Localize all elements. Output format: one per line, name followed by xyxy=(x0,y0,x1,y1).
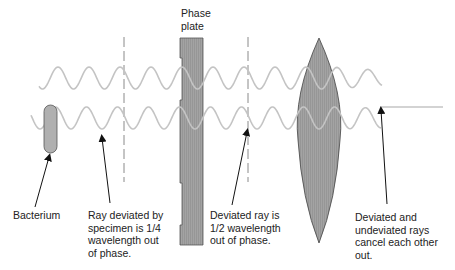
arrow-bacterium xyxy=(35,157,49,207)
cancel-label: Deviated and undeviated rays cancel each… xyxy=(355,211,438,261)
bacterium-shape xyxy=(44,105,57,153)
quarter-wave-label: Ray deviated by specimen is 1/4 waveleng… xyxy=(88,209,163,259)
arrow-half-wave xyxy=(232,132,247,205)
bacterium-label: Bacterium xyxy=(13,209,60,222)
arrow-cancel xyxy=(381,110,387,204)
phase-plate-label: Phase plate xyxy=(181,7,211,32)
half-wave-label: Deviated ray is 1/2 wavelength out of ph… xyxy=(210,209,281,247)
phase-plate xyxy=(180,38,203,245)
arrow-quarter-wave xyxy=(102,138,110,203)
